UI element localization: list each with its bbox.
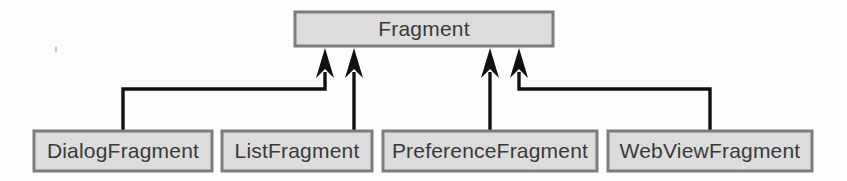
uml-canvas: Fragment DialogFragment ListFragment Pre… (0, 0, 847, 181)
class-box-preferencefragment[interactable]: PreferenceFragment (383, 131, 597, 171)
class-box-fragment[interactable]: Fragment (295, 12, 553, 46)
connector-group (123, 72, 710, 131)
paper-speck (55, 46, 57, 52)
connector-dialogfragment (123, 72, 325, 131)
arrowhead-group (316, 48, 528, 78)
class-box-webviewfragment-label: WebViewFragment (620, 139, 801, 162)
class-box-preferencefragment-label: PreferenceFragment (392, 139, 588, 162)
class-box-dialogfragment-label: DialogFragment (47, 139, 199, 162)
class-box-listfragment[interactable]: ListFragment (222, 131, 372, 171)
connector-webviewfragment (519, 72, 710, 131)
class-box-listfragment-label: ListFragment (235, 139, 360, 162)
uml-diagram: Fragment DialogFragment ListFragment Pre… (0, 0, 847, 181)
class-box-dialogfragment[interactable]: DialogFragment (34, 131, 212, 171)
class-box-fragment-label: Fragment (378, 17, 469, 40)
class-box-webviewfragment[interactable]: WebViewFragment (608, 131, 812, 171)
